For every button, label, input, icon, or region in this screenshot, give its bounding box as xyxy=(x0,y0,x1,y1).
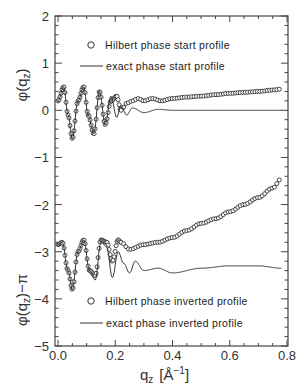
svg-text:qz[Å−1]: qz[Å−1] xyxy=(140,365,189,385)
x-tick-label: 0.2 xyxy=(106,348,124,363)
x-title-unit-close: ] xyxy=(185,366,189,383)
hilbert-start-markers xyxy=(56,85,281,140)
legend-lower: Hilbert phase inverted profile exact pha… xyxy=(80,295,248,329)
y-axis-title-lower: φ(qz)−π xyxy=(13,274,32,326)
y-title-lower-close: )−π xyxy=(13,274,30,298)
x-title-main: q xyxy=(140,366,148,383)
y-tick-label: −2 xyxy=(34,198,49,213)
legend-exact-start-label: exact phase start profile xyxy=(106,60,225,72)
legend-exact-inverted-label: exact phase inverted profile xyxy=(106,317,243,329)
y-tick-label: 2 xyxy=(42,9,49,24)
x-title-sub: z xyxy=(148,374,153,385)
legend-hilbert-start-label: Hilbert phase start profile xyxy=(105,39,230,51)
y-tick-label: −1 xyxy=(34,150,49,165)
x-tick-label: 0.4 xyxy=(163,348,181,363)
x-tick-label: 0.0 xyxy=(49,348,67,363)
y-title-lower-main: φ(q xyxy=(13,303,30,326)
y-tick-label: −5 xyxy=(34,339,49,354)
data-series xyxy=(56,85,281,291)
y-tick-label: 0 xyxy=(42,103,49,118)
exact-inverted-curve xyxy=(58,240,281,290)
y-axis-title-upper: φ(qz) xyxy=(13,68,32,101)
phase-chart: 0.00.20.40.60.8210−1−2−3−4−5 Hilbert pha… xyxy=(0,0,303,392)
y-tick-label: −4 xyxy=(34,292,49,307)
legend-hilbert-marker-icon xyxy=(88,42,94,48)
x-title-unit: [Å xyxy=(159,366,173,383)
x-axis-title: qz[Å−1] xyxy=(140,365,189,385)
svg-text:φ(qz): φ(qz) xyxy=(13,68,32,101)
x-title-unit-exp: −1 xyxy=(174,365,186,376)
y-title-upper-close: ) xyxy=(13,68,30,73)
x-tick-label: 0.6 xyxy=(221,348,239,363)
y-title-upper-main: φ(q xyxy=(13,78,30,101)
legend-hilbert-inv-marker-icon xyxy=(88,298,94,304)
hilbert-inverted-markers xyxy=(56,178,281,291)
svg-text:φ(qz)−π: φ(qz)−π xyxy=(13,274,32,326)
legend-hilbert-inverted-label: Hilbert phase inverted profile xyxy=(105,295,248,307)
x-tick-label: 0.8 xyxy=(278,348,296,363)
legend-upper: Hilbert phase start profile exact phase … xyxy=(80,39,230,72)
y-tick-label: −3 xyxy=(34,245,49,260)
y-tick-label: 1 xyxy=(42,56,49,71)
